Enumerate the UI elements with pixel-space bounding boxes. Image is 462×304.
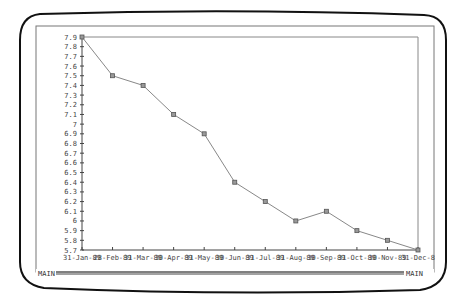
status-bar: MAIN MAIN <box>36 269 434 278</box>
series-line <box>82 37 418 250</box>
y-tick-label: 6.7 <box>64 150 77 158</box>
data-point-marker <box>172 112 176 116</box>
y-tick-label: 7.8 <box>64 43 77 51</box>
data-point-marker <box>416 248 420 252</box>
y-tick-label: 7.9 <box>64 34 77 42</box>
y-tick-label: 7.1 <box>64 111 77 119</box>
data-point-marker <box>324 209 328 213</box>
data-point-marker <box>111 74 115 78</box>
y-tick-label: 7.2 <box>64 101 77 109</box>
y-tick-label: 5.8 <box>64 237 77 245</box>
y-tick-label: 6.9 <box>64 130 77 138</box>
plot-area <box>82 37 418 250</box>
y-tick-label: 6.1 <box>64 208 77 216</box>
data-series <box>80 35 420 252</box>
y-axis-ticks: 7.97.87.77.67.57.47.37.27.176.96.86.76.6… <box>64 34 84 255</box>
window-frame <box>36 26 434 272</box>
data-point-marker <box>294 219 298 223</box>
frame-label-right: MAIN <box>406 270 423 278</box>
y-tick-label: 6.8 <box>64 140 77 148</box>
y-tick-label: 6.6 <box>64 159 77 167</box>
y-tick-label: 6 <box>73 217 77 225</box>
data-point-marker <box>202 132 206 136</box>
x-tick-label: 31-Dec-8 <box>401 254 435 262</box>
data-point-marker <box>263 200 267 204</box>
y-tick-label: 7.6 <box>64 63 77 71</box>
y-tick-label: 7.7 <box>64 53 77 61</box>
data-point-marker <box>385 238 389 242</box>
y-tick-label: 6.2 <box>64 198 77 206</box>
y-tick-label: 6.4 <box>64 179 77 187</box>
data-point-marker <box>355 229 359 233</box>
y-tick-label: 7.3 <box>64 92 77 100</box>
chart-screen: MAIN MAIN 7.97.87.77.67.57.47.37.27.176.… <box>0 0 462 304</box>
y-tick-label: 7.5 <box>64 72 77 80</box>
y-tick-label: 7 <box>73 121 77 129</box>
data-point-marker <box>141 83 145 87</box>
y-tick-label: 7.4 <box>64 82 77 90</box>
frame-label-left: MAIN <box>38 270 55 278</box>
y-tick-label: 6.5 <box>64 169 77 177</box>
y-tick-label: 5.9 <box>64 227 77 235</box>
y-tick-label: 6.3 <box>64 188 77 196</box>
data-point-marker <box>233 180 237 184</box>
data-point-marker <box>80 35 84 39</box>
x-axis-ticks: 31-Jan-8928-Feb-8931-Mar-8930-Apr-8931-M… <box>63 247 435 262</box>
